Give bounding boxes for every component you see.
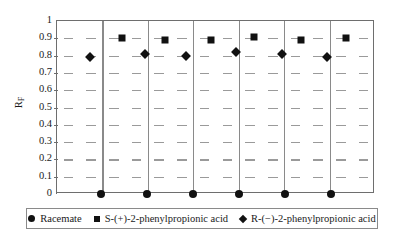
panel-divider [284,21,285,192]
gridline-dash [64,125,74,126]
gridline-dash [177,159,187,160]
gridline-dash [154,142,164,143]
gridline-dash [200,159,210,160]
gridline-dash [268,125,278,126]
legend-item-label: Racemate [40,213,81,224]
gridline-dash [109,90,119,91]
gridline-dash [359,177,369,178]
gridline-dash [223,125,233,126]
gridline-dash [177,73,187,74]
gridline-dash [132,56,142,57]
gridline-dash [64,38,74,39]
gridline-dash [268,38,278,39]
gridline-dash [359,142,369,143]
gridline-dash [313,90,323,91]
gridline-dash [268,177,278,178]
gridline-dash [132,177,142,178]
gridline-dash [359,159,369,160]
gridline-dash [291,90,301,91]
gridline-dash [291,142,301,143]
legend-item[interactable]: R-(−)-2-phenylpropionic acid [240,213,376,224]
gridline-dash [154,108,164,109]
gridline-dash [359,73,369,74]
legend-item[interactable]: Racemate [28,213,81,224]
y-axis-tick-label: 0.5 [6,102,52,112]
y-axis-tick-label: 1 [6,15,52,25]
gridline-dash [291,125,301,126]
gridline-dash [177,142,187,143]
gridline-dash [64,90,74,91]
gridline-dash [359,38,369,39]
chart-container: RF 10.90.80.70.60.50.40.30.20.10 Racemat… [0,0,405,238]
data-point-diamond [277,49,287,59]
data-point-circle [281,190,289,198]
gridline-dash [291,56,301,57]
gridline-dash [291,73,301,74]
gridline-dash [336,90,346,91]
gridline-dash [245,90,255,91]
gridline-dash [245,73,255,74]
circle-marker-icon [28,215,35,222]
gridline-dash [200,90,210,91]
legend-item-label: S-(+)-2-phenylpropionic acid [105,213,228,224]
gridline-dash [223,142,233,143]
gridline-dash [132,142,142,143]
gridline-dash [154,56,164,57]
gridline-dash [200,56,210,57]
panel-divider [330,21,331,192]
data-point-square [208,37,215,44]
gridline-dash [109,125,119,126]
gridline-dash [109,159,119,160]
legend-item[interactable]: S-(+)-2-phenylpropionic acid [94,213,228,224]
gridline-dash [132,73,142,74]
gridline-dash [245,159,255,160]
gridline-dash [359,56,369,57]
gridline-dash [64,56,74,57]
gridline-dash [64,177,74,178]
gridline-dash [336,73,346,74]
gridline-dash [245,125,255,126]
gridline-dash [154,73,164,74]
gridline-dash [359,108,369,109]
gridline-dash [132,159,142,160]
gridline-dash [336,177,346,178]
data-point-square [343,35,350,42]
gridline-dash [64,159,74,160]
data-point-diamond [85,52,95,62]
panel-divider [239,21,240,192]
data-point-square [298,37,305,44]
gridline-dash [86,73,96,74]
gridline-dash [154,159,164,160]
gridline-dash [177,125,187,126]
gridline-dash [64,142,74,143]
gridline-dash [223,159,233,160]
gridline-dash [64,73,74,74]
gridline-dash [223,177,233,178]
gridline-dash [359,90,369,91]
gridline-dash [177,38,187,39]
gridline-dash [245,177,255,178]
gridline-dash [223,56,233,57]
data-point-circle [235,190,243,198]
gridline-dash [268,56,278,57]
panel-divider [148,21,149,192]
gridline-dash [200,177,210,178]
data-point-circle [97,190,105,198]
gridline-dash [223,38,233,39]
gridline-dash [245,142,255,143]
gridline-dash [313,125,323,126]
y-axis-tick-label: 0.7 [6,67,52,77]
gridline-dash [313,142,323,143]
gridline-dash [336,56,346,57]
y-axis-tick-label: 0.4 [6,119,52,129]
gridline-dash [336,108,346,109]
y-axis-tick-label: 0.3 [6,136,52,146]
gridline-dash [86,125,96,126]
gridline-dash [154,90,164,91]
data-point-circle [189,190,197,198]
gridline-dash [291,108,301,109]
y-axis-tick-label: 0.2 [6,153,52,163]
gridline-dash [268,142,278,143]
gridline-dash [86,108,96,109]
gridline-dash [336,125,346,126]
